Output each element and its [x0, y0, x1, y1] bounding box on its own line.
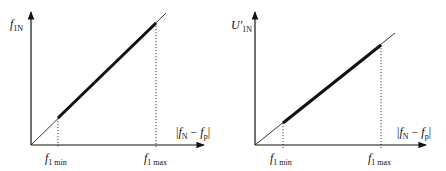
right-ylabel-sub: 1N: [242, 25, 252, 34]
tick-sub: 1 max: [147, 158, 167, 167]
tick-sub: 1 min: [48, 158, 66, 167]
left-y-axis-label: f1N: [10, 18, 23, 33]
right-ylabel-main: U′: [231, 18, 242, 32]
minus: −: [409, 125, 422, 139]
tick-sub: 1 min: [273, 158, 291, 167]
right-y-axis-label: U′1N: [231, 19, 252, 34]
left-tick-f1max: f1 max: [144, 152, 167, 167]
right-x-axis-label: |fN − fp|: [397, 126, 431, 141]
diagram-canvas: [0, 0, 446, 171]
minus: −: [188, 125, 201, 139]
left-diagonal-bold: [58, 23, 156, 118]
left-tick-f1min: f1 min: [45, 152, 67, 167]
left-x-axis-label: |fN − fp|: [176, 126, 210, 141]
right-diagonal-bold: [283, 45, 381, 123]
abs-bar: |: [429, 125, 431, 139]
left-ylabel-sub: 1N: [13, 24, 23, 33]
right-tick-f1max: f1 max: [368, 152, 391, 167]
abs-bar: |: [208, 125, 210, 139]
tick-sub: 1 max: [371, 158, 391, 167]
right-tick-f1min: f1 min: [270, 152, 292, 167]
